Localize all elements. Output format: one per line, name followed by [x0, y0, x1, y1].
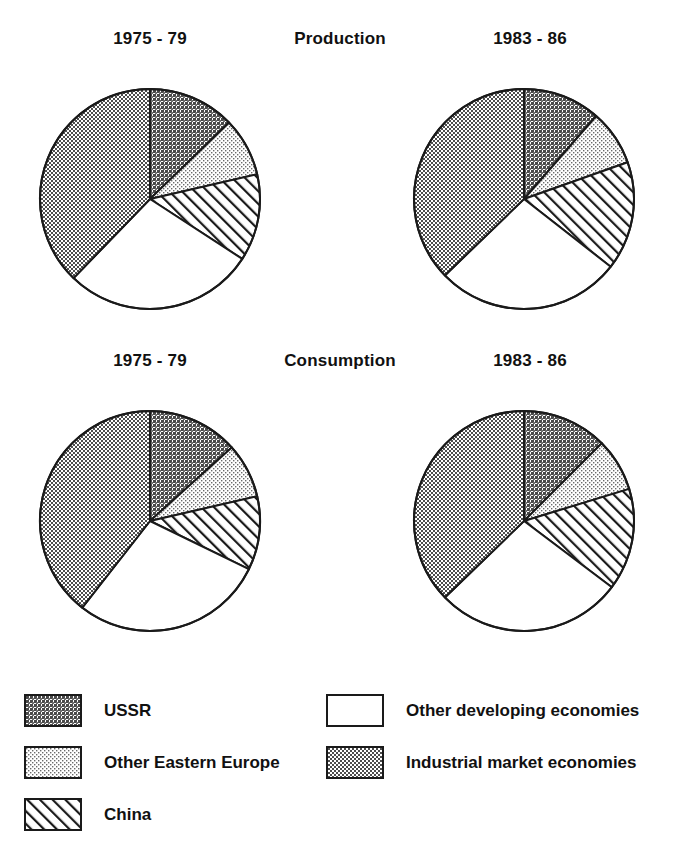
- legend-label-industrial-market-economies: Industrial market economies: [406, 754, 637, 771]
- legend-column-right: Other developing economies Industrial ma…: [326, 694, 639, 798]
- legend-swatch-other-eastern-europe: [24, 746, 82, 779]
- pie-chart-production-1975-79: [33, 82, 267, 320]
- pie-svg-production-1983-86: [407, 82, 641, 316]
- swatch-fill-light-dots: [26, 748, 80, 777]
- legend: USSR Other Eastern Europe China: [0, 694, 690, 844]
- swatch-fill-solid-white: [328, 696, 382, 725]
- legend-swatch-china: [24, 798, 82, 831]
- legend-item-ussr[interactable]: USSR: [24, 694, 280, 727]
- legend-item-other-eastern-europe[interactable]: Other Eastern Europe: [24, 746, 280, 779]
- consumption-left-period: 1975 - 79: [60, 351, 240, 371]
- legend-item-industrial-market-economies[interactable]: Industrial market economies: [326, 746, 639, 779]
- consumption-title-row: 1975 - 79 Consumption 1983 - 86: [0, 348, 690, 374]
- pie-chart-figure: 1975 - 79 Production 1983 - 86 1975 - 79…: [0, 0, 690, 845]
- legend-item-china[interactable]: China: [24, 798, 280, 831]
- legend-column-left: USSR Other Eastern Europe China: [24, 694, 280, 845]
- production-right-period: 1983 - 86: [440, 29, 620, 49]
- pie-chart-production-1983-86: [407, 82, 641, 320]
- pie-chart-consumption-1983-86: [407, 404, 641, 642]
- legend-swatch-industrial-market-economies: [326, 746, 384, 779]
- legend-label-other-eastern-europe: Other Eastern Europe: [104, 754, 280, 771]
- swatch-fill-dark-checker: [26, 696, 80, 725]
- consumption-right-period: 1983 - 86: [440, 351, 620, 371]
- production-left-period: 1975 - 79: [60, 29, 240, 49]
- legend-swatch-other-developing-economies: [326, 694, 384, 727]
- production-title-row: 1975 - 79 Production 1983 - 86: [0, 26, 690, 52]
- legend-label-other-developing-economies: Other developing economies: [406, 702, 639, 719]
- legend-label-ussr: USSR: [104, 702, 151, 719]
- swatch-fill-diagonal-hatch: [26, 800, 80, 829]
- legend-item-other-developing-economies[interactable]: Other developing economies: [326, 694, 639, 727]
- pie-chart-consumption-1975-79: [33, 404, 267, 642]
- legend-swatch-ussr: [24, 694, 82, 727]
- production-panel-title: Production: [245, 29, 435, 49]
- pie-svg-consumption-1975-79: [33, 404, 267, 638]
- pie-svg-consumption-1983-86: [407, 404, 641, 638]
- legend-label-china: China: [104, 806, 151, 823]
- swatch-fill-medium-checker: [328, 748, 382, 777]
- consumption-panel-title: Consumption: [245, 351, 435, 371]
- pie-svg-production-1975-79: [33, 82, 267, 316]
